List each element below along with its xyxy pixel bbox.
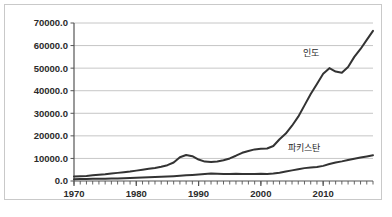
gridlines	[74, 23, 373, 158]
series-lines	[74, 31, 373, 179]
y-tick-label: 70000.0	[34, 17, 68, 28]
x-tick-label: 1970	[63, 188, 84, 199]
series-annotations: 인도파키스탄	[288, 48, 320, 153]
x-axis-tick-labels: 19701980199020002010	[63, 188, 333, 199]
y-tick-label: 40000.0	[34, 85, 68, 96]
series-line	[74, 155, 373, 179]
y-axis-tick-labels: 0.010000.020000.030000.040000.050000.060…	[34, 17, 68, 186]
line-chart: 0.010000.020000.030000.040000.050000.060…	[5, 5, 383, 201]
series-label: 파키스탄	[288, 143, 320, 153]
x-tick-label: 2000	[250, 188, 271, 199]
series-line	[74, 31, 373, 177]
y-tick-label: 60000.0	[34, 40, 68, 51]
figure-caption	[8, 204, 248, 215]
y-tick-label: 20000.0	[34, 130, 68, 141]
x-tick-label: 1980	[126, 188, 147, 199]
series-label: 인도	[303, 48, 319, 58]
x-tick-label: 2010	[313, 188, 334, 199]
y-tick-label: 50000.0	[34, 63, 68, 74]
y-tick-label: 10000.0	[34, 153, 68, 164]
x-tick-label: 1990	[188, 188, 209, 199]
chart-frame: 0.010000.020000.030000.040000.050000.060…	[4, 4, 382, 200]
y-tick-label: 0.0	[55, 175, 68, 186]
y-tick-label: 30000.0	[34, 108, 68, 119]
